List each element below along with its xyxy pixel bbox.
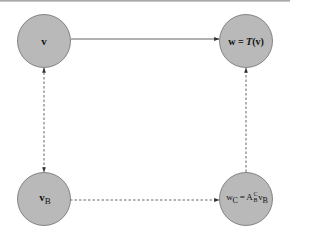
equals-sign: = [235,36,246,47]
basis-B-subscript: B [45,196,51,206]
equals-A: = A [238,192,253,202]
node-vB-label: vB [39,191,51,206]
transform-arg: (v) [252,36,264,47]
matrix-sup-sub: CB [253,191,257,203]
node-w-label: w = T(v) [228,36,264,47]
node-wC-label: wC = ACBvB [226,191,268,204]
sub-B: B [253,197,257,203]
node-v-label: v [41,35,47,47]
tail-B-subscript: B [263,196,268,205]
